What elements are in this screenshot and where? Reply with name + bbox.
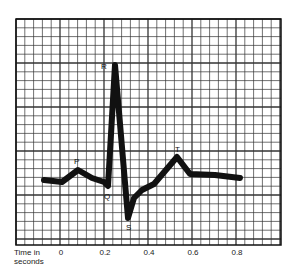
ecg-chart [0,0,295,275]
x-axis-title: Time in seconds [14,248,44,266]
grid [16,19,281,245]
x-tick-0.8: 0.8 [231,248,242,257]
x-tick-0: 0 [59,248,63,257]
x-tick-0.2: 0.2 [99,248,110,257]
r-wave-label: R [101,62,107,71]
x-tick-0.4: 0.4 [143,248,154,257]
x-tick-0.6: 0.6 [187,248,198,257]
s-wave-label: S [126,223,131,232]
x-axis-title-line1: Time in [14,248,44,257]
x-axis-title-line2: seconds [14,257,44,266]
t-wave-label: T [175,145,180,154]
p-wave-label: P [74,157,79,166]
q-wave-label: Q [104,192,110,201]
